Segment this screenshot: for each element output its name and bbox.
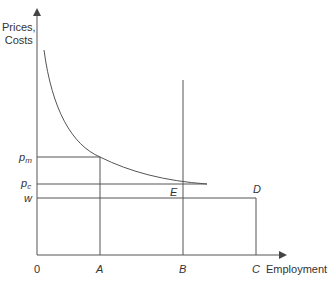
point-d: D [253,184,261,195]
y-label-line1: Prices, [2,21,36,34]
tick-w: w [24,193,32,204]
tick-pm: pm [19,152,32,165]
tick-pc: pc [21,178,31,191]
point-e: E [170,187,177,198]
tick-a: A [96,264,103,275]
origin-label: 0 [34,264,40,275]
y-label-line2: Costs [2,34,36,47]
y-axis-label: Prices, Costs [2,21,36,47]
diagram-canvas [0,0,330,281]
x-axis-label: Employment [266,264,327,275]
tick-b: B [179,264,186,275]
tick-c: C [252,264,260,275]
